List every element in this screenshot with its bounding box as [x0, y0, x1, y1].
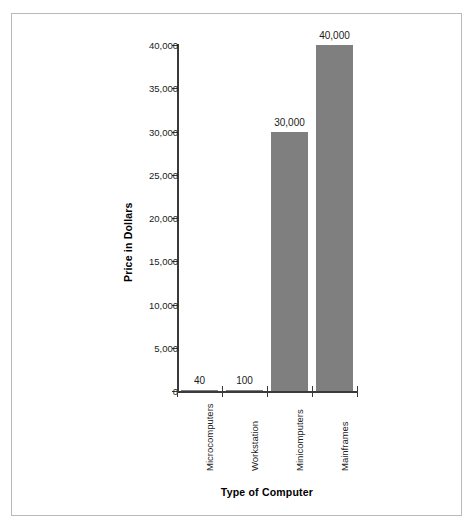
y-tick-label-text: 35,000 [114, 84, 178, 93]
y-tick-label: 30,000 [104, 128, 178, 137]
bar-value-label: 40,000 [295, 30, 375, 41]
x-tick-mark [267, 386, 268, 397]
bar-chart: 05,00010,00015,00020,00025,00030,00035,0… [0, 0, 473, 531]
y-tick-label-text: 40,000 [114, 41, 178, 50]
y-tick-label-text: 30,000 [114, 128, 178, 137]
y-tick-label: 10,000 [104, 301, 178, 310]
x-axis-title: Type of Computer [177, 486, 357, 498]
y-tick-label: 5,000 [104, 344, 178, 353]
y-tick-label: 15,000 [104, 257, 178, 266]
bar [271, 132, 308, 392]
category-label: Minicomputers [295, 409, 305, 471]
bar [226, 390, 263, 392]
bar-value-label: 100 [205, 375, 285, 386]
y-tick-label-text: 10,000 [114, 301, 178, 310]
x-tick-mark [357, 386, 358, 397]
y-tick-label-text: 25,000 [114, 171, 178, 180]
category-label: Microcomputers [205, 403, 215, 471]
x-tick-mark [312, 386, 313, 397]
bar-value-label: 30,000 [250, 117, 330, 128]
category-label: Workstation [250, 421, 260, 471]
bar [316, 45, 353, 391]
y-tick-label: 0 [104, 387, 178, 396]
y-tick-label-text: 0 [114, 387, 178, 396]
y-tick-label: 25,000 [104, 171, 178, 180]
y-tick-label: 20,000 [104, 214, 178, 223]
y-tick-label-text: 5,000 [114, 344, 178, 353]
y-tick-label: 35,000 [104, 84, 178, 93]
category-label: Mainframes [340, 421, 350, 471]
y-tick-label: 40,000 [104, 41, 178, 50]
y-axis-title: Price in Dollars [122, 202, 134, 282]
x-tick-mark [222, 386, 223, 397]
x-tick-mark [177, 386, 178, 397]
bar [181, 390, 218, 392]
